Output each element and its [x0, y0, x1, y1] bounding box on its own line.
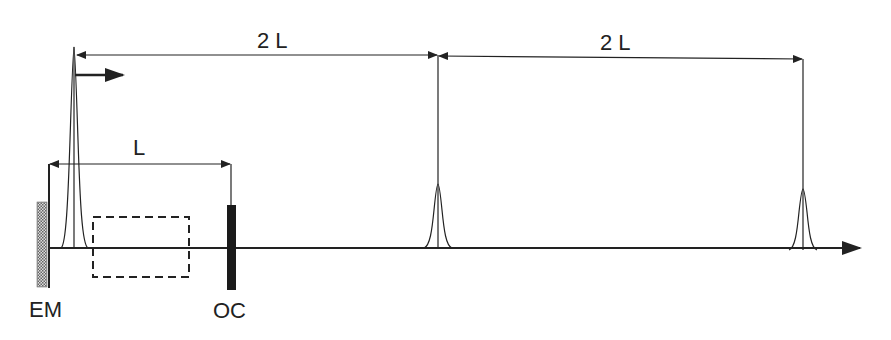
cavity-length-label: L — [133, 135, 145, 160]
round-trip-dimension-2 — [439, 56, 802, 59]
output-coupler — [227, 164, 236, 290]
intracavity-pulse — [61, 47, 88, 248]
diagram-canvas: L 2 L 2 L EM OC — [0, 0, 891, 340]
round-trip-label-2: 2 L — [600, 30, 631, 55]
output-coupler-label: OC — [213, 298, 246, 323]
end-mirror-label: EM — [29, 297, 62, 322]
end-mirror — [37, 164, 49, 288]
output-pulse-1 — [424, 55, 452, 248]
round-trip-label-1: 2 L — [257, 28, 288, 53]
output-pulse-2 — [789, 59, 817, 250]
